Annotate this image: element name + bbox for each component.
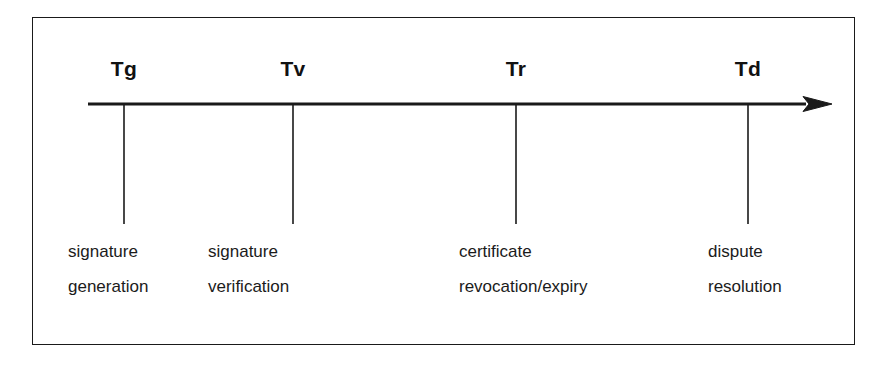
caption-line-2: verification	[208, 269, 289, 304]
caption-line-2: resolution	[708, 269, 782, 304]
caption-line-2: revocation/expiry	[459, 269, 588, 304]
caption-line-1: signature	[208, 234, 289, 269]
event-caption-td: disputeresolution	[708, 234, 782, 304]
event-caption-tr: certificaterevocation/expiry	[459, 234, 588, 304]
caption-line-1: certificate	[459, 234, 588, 269]
caption-line-1: signature	[68, 234, 148, 269]
event-marker-tv: Tv	[280, 58, 305, 79]
event-caption-tg: signaturegeneration	[68, 234, 148, 304]
event-marker-tr: Tr	[506, 58, 526, 79]
event-marker-tg: Tg	[111, 58, 137, 79]
event-marker-td: Td	[735, 58, 761, 79]
caption-line-1: dispute	[708, 234, 782, 269]
timeline-figure: TgTvTrTd signaturegenerationsignaturever…	[0, 0, 888, 365]
event-caption-tv: signatureverification	[208, 234, 289, 304]
caption-line-2: generation	[68, 269, 148, 304]
